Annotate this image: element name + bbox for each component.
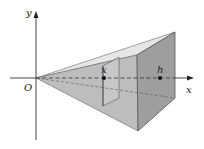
- point-x-label: x: [101, 64, 107, 75]
- x-axis-arrow-icon: [187, 76, 194, 81]
- y-axis-label: y: [25, 7, 32, 18]
- pyramid-diagram: y O x x h: [0, 0, 204, 149]
- front-face: [36, 55, 138, 131]
- y-axis-arrow-icon: [34, 11, 39, 18]
- point-h: [158, 76, 162, 80]
- origin-label: O: [24, 82, 32, 93]
- x-axis-label: x: [186, 84, 192, 95]
- point-x: [102, 76, 106, 80]
- diagram-svg: y O x x h: [0, 0, 204, 149]
- point-h-label: h: [157, 64, 163, 75]
